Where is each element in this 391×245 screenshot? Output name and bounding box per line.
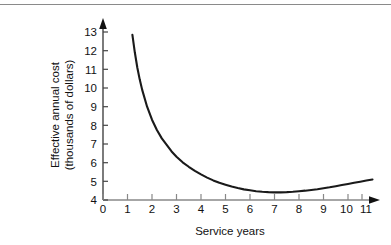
y-tick-label-8: 8 <box>91 120 97 132</box>
x-tick-label-6: 6 <box>247 203 253 215</box>
x-tick-label-11: 11 <box>360 203 372 215</box>
x-tick-label-9: 9 <box>320 203 326 215</box>
y-tick-label-4: 4 <box>91 194 98 206</box>
y-tick-label-5: 5 <box>91 176 97 188</box>
chart-figure: 4 5 6 7 8 9 10 11 12 13 0 1 2 3 4 <box>0 0 391 245</box>
x-tick-label-3: 3 <box>173 203 179 215</box>
y-tick-label-9: 9 <box>91 101 97 113</box>
y-axis-arrowhead <box>99 18 107 29</box>
x-axis-title: Service years <box>195 225 265 237</box>
x-axis-ticks <box>103 194 362 200</box>
x-tick-label-5: 5 <box>222 203 228 215</box>
x-tick-label-4: 4 <box>198 203 205 215</box>
y-tick-label-6: 6 <box>91 157 97 169</box>
y-tick-label-13: 13 <box>84 26 97 38</box>
x-tick-label-0: 0 <box>100 203 106 215</box>
y-tick-label-11: 11 <box>85 64 97 76</box>
y-axis-ticks <box>103 32 108 200</box>
y-tick-label-7: 7 <box>91 138 97 150</box>
y-axis-title-line2: (thousands of dollars) <box>63 60 75 171</box>
cost-curve-chart: 4 5 6 7 8 9 10 11 12 13 0 1 2 3 4 <box>0 0 391 245</box>
cost-curve-line <box>132 35 372 193</box>
y-axis-title-line1: Effective annual cost <box>49 61 61 168</box>
y-tick-label-12: 12 <box>84 45 97 57</box>
x-tick-label-1: 1 <box>124 203 130 215</box>
x-tick-label-10: 10 <box>340 203 353 215</box>
x-tick-label-7: 7 <box>271 203 277 215</box>
x-tick-label-2: 2 <box>149 203 155 215</box>
x-tick-label-8: 8 <box>296 203 302 215</box>
y-tick-label-10: 10 <box>84 82 97 94</box>
